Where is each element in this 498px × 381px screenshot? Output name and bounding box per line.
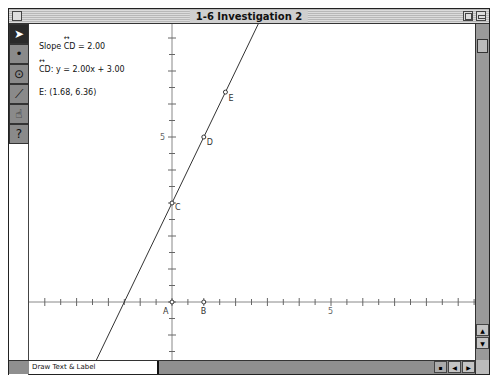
scroll-right-arrow[interactable]: ▶ — [462, 361, 475, 373]
segment-cd-label: CD — [64, 42, 76, 51]
resize-grow-box[interactable] — [475, 360, 489, 374]
point-tool[interactable]: • — [9, 44, 29, 64]
equation-value: : y = 2.00x + 3.00 — [51, 65, 125, 74]
scroll-thumb-small[interactable]: ▪ — [434, 361, 447, 373]
point-icon: • — [15, 47, 22, 61]
coordinate-graph[interactable]: 55ABCDE — [29, 24, 476, 362]
zoom-box-button[interactable] — [463, 11, 473, 21]
scroll-up-arrow[interactable]: ▲ — [476, 324, 489, 336]
close-box-button[interactable] — [12, 11, 22, 21]
point-label-c: C — [175, 203, 181, 212]
point-label-e: E — [228, 94, 233, 103]
vertical-scroll-thumb[interactable] — [477, 39, 488, 53]
title-bar[interactable]: 1-6 Investigation 2 — [9, 9, 489, 24]
point-e — [223, 90, 227, 94]
line-cd-label: CD — [39, 65, 51, 74]
point-label-a: A — [163, 307, 169, 316]
straightedge-tool[interactable]: ⟋ — [9, 84, 29, 104]
x-axis-label-5: 5 — [328, 307, 333, 316]
equation-measurement[interactable]: CD: y = 2.00x + 3.00 — [39, 65, 125, 74]
slope-label: Slope — [39, 42, 64, 51]
hand-icon: ☝ — [15, 107, 22, 121]
selection-arrow-tool[interactable]: ➤ — [9, 24, 29, 44]
slope-measurement[interactable]: Slope CD = 2.00 — [39, 42, 105, 51]
sketch-canvas[interactable]: 55ABCDE Slope CD = 2.00 CD: y = 2.00x + … — [29, 24, 476, 362]
point-c — [170, 201, 174, 205]
circle-icon: ⊙ — [14, 67, 24, 81]
text-tool[interactable]: ☝ — [9, 104, 29, 124]
toolbox: ➤•⊙⟋☝? — [9, 24, 29, 375]
point-label-d: D — [207, 138, 213, 147]
sketch-window: 1-6 Investigation 2 ➤•⊙⟋☝? 55ABCDE Slope… — [8, 8, 490, 375]
collapse-box-button[interactable] — [476, 11, 486, 21]
slope-value: = 2.00 — [76, 42, 106, 51]
arrow-icon: ➤ — [14, 27, 24, 41]
scroll-down-arrow[interactable]: ▼ — [476, 337, 489, 349]
scroll-left-arrow[interactable]: ◀ — [448, 361, 461, 373]
vertical-scrollbar[interactable]: ▲ ▼ — [475, 24, 489, 362]
point-e-coordinates[interactable]: E: (1.68, 6.36) — [39, 88, 96, 97]
horizontal-scrollbar[interactable]: Draw Text & Label ▪ ◀ ▶ — [9, 360, 489, 374]
point-a — [170, 300, 174, 304]
status-bar: Draw Text & Label — [29, 361, 159, 374]
point-label-b: B — [201, 307, 207, 316]
custom-tool[interactable]: ? — [9, 124, 29, 144]
point-d — [202, 135, 206, 139]
point-b — [202, 300, 206, 304]
question-icon: ? — [16, 127, 22, 141]
window-title: 1-6 Investigation 2 — [190, 10, 308, 23]
compass-tool[interactable]: ⊙ — [9, 64, 29, 84]
segment-icon: ⟋ — [15, 87, 23, 101]
y-axis-label-5: 5 — [160, 133, 165, 142]
line-cd — [29, 24, 476, 362]
